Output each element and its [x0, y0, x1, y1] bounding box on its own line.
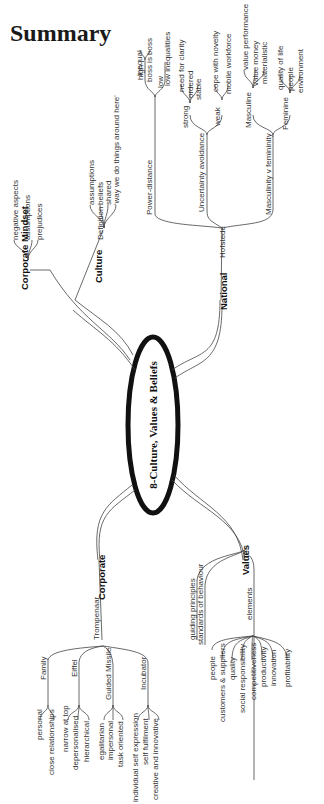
ua-stable: stable [194, 78, 203, 100]
masculinity-label: Masculinity v femininity [264, 133, 273, 215]
gm-task-oriented: task oriented [116, 721, 125, 767]
corporate-label: Corporate [96, 555, 107, 600]
uncertainty-avoidance-label: Uncertainty avoidance [197, 132, 206, 212]
values-standards-of-behaviour: standards of behaviour [196, 563, 205, 645]
mf-quality-of-life: quality of life [276, 45, 285, 90]
mf-masculine: Masculine [244, 91, 253, 128]
gm-impersonal: impersonal [106, 721, 115, 760]
mf-value-performance: value performance [241, 3, 250, 70]
branch-corporate: Corporate Trompenaar Family Eiffel Guide… [35, 555, 160, 802]
value-profitability: profitability [283, 649, 292, 687]
cm-assumptions: assumptions [23, 195, 32, 240]
mind-map: 8-Culture, Values & Beliefs Corporate Mi… [0, 0, 324, 804]
center-label: 8-Culture, Values & Beliefs [147, 361, 159, 489]
cm-prejudices: prejudices [35, 204, 44, 240]
value-people: people [208, 655, 217, 680]
connector-corporate [99, 490, 135, 560]
value-competitiveness: competitiveness [249, 643, 258, 700]
value-innovation: innovation [269, 650, 278, 686]
pd-boss-is-boss: boss is boss [145, 38, 154, 82]
pd-inequal: inequal [135, 50, 144, 76]
branch-values: Values guiding principles standards of b… [188, 545, 292, 780]
culture-way-we-do-things: 'way we do things around here' [112, 95, 121, 205]
gm-egalitarian: egalitarian [97, 723, 106, 760]
branch-corporate-mindset: Corporate Mindset negative aspects assum… [11, 180, 50, 290]
family-close-relationships: close relationships [47, 709, 56, 775]
corporate-eiffel: Eiffel [70, 659, 79, 677]
eiffel-hierarchical: hierarchical [82, 721, 91, 762]
ua-weak: weak [213, 106, 222, 127]
corporate-trompenaar: Trompenaar [92, 596, 101, 640]
mf-environment: environment [296, 48, 305, 93]
connector-values [172, 480, 245, 560]
value-customers-suppliers: customers & suppliers [218, 643, 227, 722]
eiffel-depersonalised: depersonalised [71, 716, 80, 770]
pd-low-inequalities: low inequalities [163, 32, 172, 86]
ua-strong: strong [181, 106, 190, 128]
value-productivity: productivity [259, 647, 268, 687]
family-personal: personal [35, 709, 44, 740]
mf-value-money: value money [251, 41, 260, 86]
branch-culture: Culture Definition assumptions beliefs s… [75, 95, 121, 300]
mf-people: people [286, 66, 295, 91]
national-label: National [218, 273, 229, 310]
eiffel-narrow-at-top: narrow at top [61, 705, 70, 752]
values-elements: elements [245, 588, 254, 620]
culture-assumptions: assumptions [87, 160, 96, 205]
center-node: 8-Culture, Values & Beliefs [128, 337, 178, 513]
value-quality: quality [228, 657, 237, 680]
cm-negative-aspects: negative aspects [11, 180, 20, 240]
mf-materialistic: materialistic [260, 42, 269, 84]
power-distance-label: Power-distance [145, 159, 154, 215]
values-elements-fan: people customers & suppliers quality soc… [208, 636, 292, 722]
connector-culture [73, 310, 135, 370]
culture-label: Culture [93, 250, 104, 283]
corporate-guided-missile: Guided Missile [104, 647, 113, 700]
incubator-individual-self-expression: individual self expression [131, 713, 140, 802]
incubator-creative-and-innovative: creative and innovative [151, 718, 160, 800]
ua-need-for-clarity: need for clarity [177, 40, 186, 92]
branch-national: National Hofstede Power-distance Uncerta… [135, 3, 305, 310]
ua-cope-with-novelty: cope with novelty [211, 31, 220, 92]
connector-corporate-mindset [50, 270, 130, 360]
connector-national [172, 300, 220, 370]
ua-mobile-workforce: mobile workforce [224, 33, 233, 94]
national-hofstede: Hofstede [218, 225, 227, 258]
mf-feminine: Feminine [281, 97, 290, 130]
incubator-self-fulfilment: self fulfilment [141, 718, 150, 765]
values-label: Values [240, 545, 251, 575]
corporate-family: Family [39, 656, 48, 680]
corporate-incubator: Incubator [139, 656, 148, 690]
value-social-responsibility: social responsibility [238, 644, 247, 713]
